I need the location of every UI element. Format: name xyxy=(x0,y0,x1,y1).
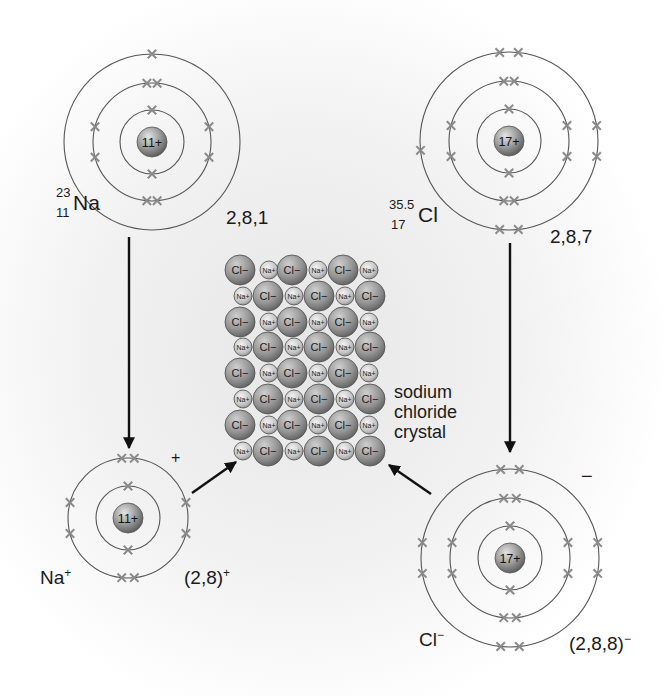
chloride-ion-sphere: Cl− xyxy=(253,332,283,362)
chloride-ion-sphere: Cl− xyxy=(304,384,334,414)
svg-text:Na+: Na+ xyxy=(262,422,275,429)
cl-ion-charge: − xyxy=(437,628,444,642)
svg-text:Cl−: Cl− xyxy=(362,341,379,353)
chloride-ion-sphere: Cl− xyxy=(225,307,255,337)
chloride-ion-sphere: Cl− xyxy=(277,358,307,388)
svg-text:Cl−: Cl− xyxy=(260,341,277,353)
svg-text:Na+: Na+ xyxy=(338,344,351,351)
chloride-ion-sphere: Cl− xyxy=(328,255,358,285)
chloride-ion-sphere: Cl− xyxy=(277,255,307,285)
svg-text:Na+: Na+ xyxy=(311,422,324,429)
crystal-label-line-3: crystal xyxy=(394,422,457,442)
chloride-ion-sphere: Cl− xyxy=(277,307,307,337)
cl-ion-configuration: (2,8,8)− xyxy=(569,632,631,655)
chloride-ion-sphere: Cl− xyxy=(355,332,385,362)
svg-text:Na+: Na+ xyxy=(338,448,351,455)
na-ion-charge-mark: + xyxy=(171,449,180,467)
sodium-ion-sphere: Na+ xyxy=(234,390,252,408)
sodium-ion-sphere: Na+ xyxy=(309,313,327,331)
svg-text:Cl−: Cl− xyxy=(284,367,301,379)
chloride-ion-sphere: Cl− xyxy=(355,436,385,466)
chloride-ion-sphere: Cl− xyxy=(328,410,358,440)
svg-text:Cl−: Cl− xyxy=(232,316,249,328)
sodium-ion-sphere: Na+ xyxy=(309,364,327,382)
sodium-ion-sphere: Na+ xyxy=(234,442,252,460)
chloride-ion-sphere: Cl− xyxy=(253,436,283,466)
cl-symbol: Cl xyxy=(418,203,438,227)
chloride-ion-sphere: Cl− xyxy=(304,332,334,362)
sodium-ion-sphere: Na+ xyxy=(260,364,278,382)
svg-text:Na+: Na+ xyxy=(262,319,275,326)
na-atom-configuration: 2,8,1 xyxy=(226,207,268,229)
chloride-ion-sphere: Cl− xyxy=(328,358,358,388)
sodium-ion-sphere: Na+ xyxy=(360,313,378,331)
sodium-ion-sphere: Na+ xyxy=(336,442,354,460)
chloride-ion-sphere: Cl− xyxy=(355,384,385,414)
svg-text:Na+: Na+ xyxy=(311,319,324,326)
svg-text:Na+: Na+ xyxy=(362,370,375,377)
svg-text:Cl−: Cl− xyxy=(284,419,301,431)
na-mass-number: 23 xyxy=(56,185,70,200)
svg-text:Cl−: Cl− xyxy=(260,290,277,302)
chloride-ion-sphere: Cl− xyxy=(225,410,255,440)
na-ion-config-charge: + xyxy=(223,566,230,580)
background xyxy=(0,0,670,696)
svg-text:Cl−: Cl− xyxy=(284,316,301,328)
svg-text:Cl−: Cl− xyxy=(362,393,379,405)
svg-text:Cl−: Cl− xyxy=(232,419,249,431)
sodium-ion-sphere: Na+ xyxy=(285,390,303,408)
sodium-ion-sphere: Na+ xyxy=(360,364,378,382)
na-atomic-number: 11 xyxy=(56,205,70,220)
svg-text:Cl−: Cl− xyxy=(335,419,352,431)
cl-ion-symbol: Cl xyxy=(419,629,437,650)
svg-text:Na+: Na+ xyxy=(236,396,249,403)
na-ion-label: Na+ xyxy=(40,566,71,589)
svg-text:Na+: Na+ xyxy=(262,267,275,274)
svg-text:Na+: Na+ xyxy=(362,422,375,429)
chloride-ion-sphere: Cl− xyxy=(225,358,255,388)
chloride-ion-sphere: Cl− xyxy=(225,255,255,285)
crystal-label-line-1: sodium xyxy=(394,382,457,402)
svg-text:Cl−: Cl− xyxy=(260,445,277,457)
svg-text:Na+: Na+ xyxy=(311,370,324,377)
svg-text:Cl−: Cl− xyxy=(232,264,249,276)
sodium-ion-sphere: Na+ xyxy=(336,287,354,305)
svg-text:Na+: Na+ xyxy=(287,344,300,351)
cl-atomic-number: 17 xyxy=(391,217,405,232)
sodium-ion-sphere: Na+ xyxy=(285,287,303,305)
svg-text:Na+: Na+ xyxy=(362,319,375,326)
svg-text:Na+: Na+ xyxy=(362,267,375,274)
svg-text:Na+: Na+ xyxy=(338,396,351,403)
chloride-ion-sphere: Cl− xyxy=(253,281,283,311)
na-symbol: Na xyxy=(73,191,100,215)
sodium-ion-sphere: Na+ xyxy=(260,261,278,279)
na-ion-symbol: Na xyxy=(40,567,64,588)
sodium-ion-sphere: Na+ xyxy=(234,287,252,305)
svg-text:Cl−: Cl− xyxy=(311,290,328,302)
sodium-ion-sphere: Na+ xyxy=(360,261,378,279)
svg-text:Na+: Na+ xyxy=(287,396,300,403)
cl-ion-charge-mark: − xyxy=(581,465,593,488)
chloride-ion-sphere: Cl− xyxy=(328,307,358,337)
svg-text:Cl−: Cl− xyxy=(260,393,277,405)
svg-text:Cl−: Cl− xyxy=(335,316,352,328)
chloride-ion-sphere: Cl− xyxy=(304,436,334,466)
nucleus-charge-label: 11+ xyxy=(142,136,162,150)
svg-text:Cl−: Cl− xyxy=(311,393,328,405)
na-ion-config-value: (2,8) xyxy=(184,567,223,588)
crystal-label: sodium chloride crystal xyxy=(394,382,457,442)
sodium-ion-sphere: Na+ xyxy=(285,338,303,356)
crystal-label-line-2: chloride xyxy=(394,402,457,422)
svg-text:Cl−: Cl− xyxy=(335,367,352,379)
sodium-ion-sphere: Na+ xyxy=(285,442,303,460)
nucleus-charge-label: 17+ xyxy=(498,135,519,149)
svg-text:Na+: Na+ xyxy=(236,293,249,300)
sodium-ion-sphere: Na+ xyxy=(309,416,327,434)
nucleus-charge-label: 17+ xyxy=(499,552,520,566)
sodium-ion-sphere: Na+ xyxy=(336,338,354,356)
svg-text:Na+: Na+ xyxy=(262,370,275,377)
sodium-ion-sphere: Na+ xyxy=(336,390,354,408)
nucleus-charge-label: 11+ xyxy=(118,512,138,526)
svg-text:Na+: Na+ xyxy=(236,448,249,455)
cl-ion-config-value: (2,8,8) xyxy=(569,633,624,654)
